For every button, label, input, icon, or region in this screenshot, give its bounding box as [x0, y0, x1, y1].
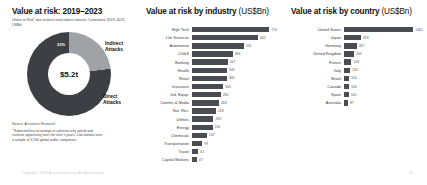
industry-bar-label: Nat. Res.: [142, 108, 192, 113]
industry-bar-label: Comms & Media: [142, 100, 192, 105]
industry-bar-track: 280: [192, 91, 285, 98]
page-number: 10: [409, 171, 413, 175]
country-bar-row: Spain100: [287, 91, 427, 98]
country-bar-track: 209: [344, 50, 427, 57]
industry-bar-label: High Tech: [142, 27, 192, 32]
industry-bar-value: 342: [229, 68, 235, 72]
industry-bar-bar: [192, 157, 197, 162]
country-bar-value: 1465: [415, 28, 423, 32]
donut-indirect-percent: 23%: [57, 42, 65, 47]
donut-panel-title: Value at risk: 2019–2023: [12, 7, 102, 16]
industry-bar-track: 263: [192, 99, 285, 106]
industry-bar-row: Transportation99: [142, 140, 285, 147]
industry-bar-track: 753: [192, 26, 285, 33]
industry-bar-value: 305: [225, 85, 231, 89]
industry-bar-bar: [192, 116, 213, 121]
country-bar-bar: [344, 100, 348, 105]
country-bar-label: Spain: [287, 92, 344, 97]
industry-bar-row: Banking347: [142, 59, 285, 66]
copyright-text: Copyright © 2019 Accenture Security. All…: [22, 171, 105, 175]
country-bar-bar: [344, 35, 361, 40]
country-bar-label: Germany: [287, 43, 344, 48]
industry-bar-track: 209: [192, 116, 285, 123]
industry-bar-label: Banking: [142, 60, 192, 65]
industry-bar-value: 61: [200, 150, 204, 154]
industry-bar-track: 200: [192, 124, 285, 131]
industry-bar-label: Chemicals: [142, 133, 192, 138]
industry-bar-value: 209: [215, 117, 221, 121]
country-bar-row: Brazil104: [287, 75, 427, 82]
industry-bar-track: 505: [192, 42, 285, 49]
country-bar-value: 267: [359, 44, 365, 48]
industry-bar-track: 233: [192, 107, 285, 114]
industry-bar-track: 347: [192, 59, 285, 66]
industry-bar-label: Utilities: [142, 117, 192, 122]
country-bar-row: Japan358: [287, 34, 427, 41]
industry-bar-track: 47: [192, 156, 285, 163]
industry-bar-row: Comms & Media263: [142, 99, 285, 106]
donut-direct-percent: 77%: [19, 95, 27, 100]
industry-bar-bar: [192, 100, 219, 105]
industry-bar-label: Ind. Equip.: [142, 92, 192, 97]
industry-bar-track: 396: [192, 50, 285, 57]
industry-bar-value: 263: [221, 101, 227, 105]
country-bar-row: Italy131: [287, 67, 427, 74]
industry-bar-label: Energy: [142, 125, 192, 130]
country-bar-label: United Kingdom: [287, 51, 344, 56]
value-at-risk-country-panel: Value at risk by country (US$Bn) United …: [287, 0, 427, 170]
slide-root: Value at risk: 2019–2023 (Value at Risk*…: [0, 0, 427, 185]
country-bar-label: Australia: [287, 100, 344, 105]
country-title-unit: (US$Bn): [379, 7, 411, 16]
country-title-text: Value at risk by country: [291, 7, 379, 16]
donut-direct-label: DirectAttacks: [103, 93, 121, 105]
industry-bar-value: 280: [223, 93, 229, 97]
industry-bar-row: Insurance305: [142, 83, 285, 90]
country-bar-row: Canada104: [287, 83, 427, 90]
industry-bar-row: Life Sciences642: [142, 34, 285, 41]
country-bar-track: 358: [344, 34, 427, 41]
industry-bar-value: 753: [271, 28, 277, 32]
industry-bar-bar: [192, 149, 198, 154]
country-bar-bar: [344, 92, 349, 97]
country-bar-label: Brazil: [287, 76, 344, 81]
industry-bar-value: 47: [199, 158, 203, 162]
industry-bar-row: Capital Markets47: [142, 156, 285, 163]
country-bar-value: 104: [351, 85, 357, 89]
industry-bar-bar: [192, 43, 244, 48]
industry-bar-value: 505: [246, 44, 252, 48]
industry-bar-label: Capital Markets: [142, 157, 192, 162]
donut-indirect-label: IndirectAttacks: [105, 40, 123, 52]
country-bar-label: Japan: [287, 35, 344, 40]
industry-bar-bar: [192, 59, 228, 64]
industry-bar-label: Insurance: [142, 84, 192, 89]
industry-bar-bar: [192, 76, 227, 81]
industry-bar-label: Retail: [142, 76, 192, 81]
country-bar-value: 100: [351, 93, 357, 97]
industry-bar-value: 396: [235, 52, 241, 56]
industry-bar-bar: [192, 51, 233, 56]
industry-bar-label: Transportation: [142, 141, 192, 146]
value-at-risk-donut-panel: Value at risk: 2019–2023 (Value at Risk*…: [0, 0, 140, 170]
industry-bar-row: Travel61: [142, 148, 285, 155]
industry-bar-label: Health: [142, 68, 192, 73]
country-bar-bar: [344, 84, 349, 89]
country-bar-value: 131: [352, 68, 358, 72]
industry-bar-bar: [192, 108, 216, 113]
industry-bar-row: High Tech753: [142, 26, 285, 33]
country-bar-bar: [344, 51, 354, 56]
source-block: Source: Accenture Research * Expected lo…: [12, 122, 104, 142]
industry-bar-row: Retail340: [142, 75, 285, 82]
country-bar-bar: [344, 43, 357, 48]
industry-bar-value: 642: [260, 36, 266, 40]
slide-footer: Copyright © 2019 Accenture Security. All…: [0, 171, 427, 179]
industry-title-unit: (US$Bn): [236, 7, 268, 16]
country-bar-track: 100: [344, 91, 427, 98]
industry-bar-track: 61: [192, 148, 285, 155]
country-bar-track: 104: [344, 83, 427, 90]
country-bar-row: France158: [287, 59, 427, 66]
industry-bar-track: 305: [192, 83, 285, 90]
country-bar-row: United Kingdom209: [287, 50, 427, 57]
industry-bar-chart: High Tech753Life Sciences642Automotive50…: [142, 26, 285, 164]
country-bar-row: United States1465: [287, 26, 427, 33]
industry-bar-value: 147: [209, 133, 215, 137]
